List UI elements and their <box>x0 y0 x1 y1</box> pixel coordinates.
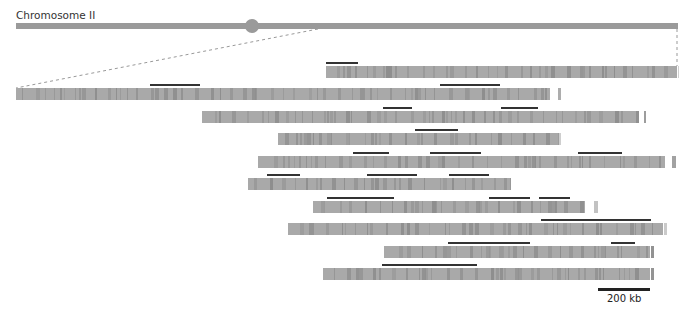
contig-track <box>313 201 585 213</box>
band <box>505 66 508 78</box>
band <box>584 111 586 123</box>
band <box>518 88 519 100</box>
band <box>489 246 491 258</box>
band <box>541 88 544 100</box>
band <box>255 88 257 100</box>
band <box>455 133 458 145</box>
band <box>407 66 409 78</box>
band <box>383 178 387 190</box>
band <box>324 111 326 123</box>
band <box>476 66 478 78</box>
band <box>127 88 128 100</box>
band <box>54 88 55 100</box>
band <box>36 88 40 100</box>
band <box>567 66 571 78</box>
band <box>582 156 583 168</box>
band <box>481 246 482 258</box>
band <box>364 88 365 100</box>
band <box>254 178 257 190</box>
band <box>379 268 381 280</box>
band <box>429 223 430 235</box>
band <box>354 178 358 190</box>
band <box>384 156 387 168</box>
band <box>504 178 507 190</box>
band <box>285 133 289 145</box>
band <box>644 111 646 123</box>
band <box>556 111 557 123</box>
band <box>678 66 679 78</box>
band <box>659 156 661 168</box>
band <box>504 268 506 280</box>
band <box>282 178 286 190</box>
band <box>332 178 336 190</box>
band <box>557 268 561 280</box>
band <box>383 66 385 78</box>
band <box>309 88 312 100</box>
band <box>445 223 446 235</box>
band <box>82 88 86 100</box>
band <box>546 133 550 145</box>
band <box>581 246 584 258</box>
band <box>560 246 561 258</box>
highlight-region <box>415 129 458 131</box>
band <box>544 223 548 235</box>
band <box>288 156 290 168</box>
band <box>652 223 653 235</box>
band <box>583 66 585 78</box>
contig-track <box>278 133 559 145</box>
band <box>451 111 452 123</box>
band <box>299 156 301 168</box>
band <box>508 246 510 258</box>
band <box>339 156 343 168</box>
band <box>491 268 494 280</box>
band <box>472 111 475 123</box>
band <box>475 133 477 145</box>
band <box>426 156 430 168</box>
highlight-region <box>150 84 200 86</box>
band <box>446 66 448 78</box>
band <box>302 111 303 123</box>
band <box>411 111 414 123</box>
band <box>324 201 325 213</box>
band <box>401 223 404 235</box>
band <box>636 111 639 123</box>
band <box>243 88 247 100</box>
band <box>491 133 492 145</box>
band <box>521 66 523 78</box>
band <box>456 246 457 258</box>
band <box>411 201 414 213</box>
band <box>404 201 407 213</box>
band <box>423 111 426 123</box>
band <box>415 201 419 213</box>
band <box>602 66 604 78</box>
band <box>268 111 269 123</box>
band <box>415 223 419 235</box>
band <box>624 268 625 280</box>
band <box>526 223 527 235</box>
band <box>623 156 625 168</box>
band <box>568 268 569 280</box>
band <box>355 66 357 78</box>
band <box>600 223 602 235</box>
band <box>664 66 668 78</box>
band <box>569 246 573 258</box>
band <box>434 133 437 145</box>
band <box>523 133 526 145</box>
band <box>557 223 558 235</box>
band <box>617 246 619 258</box>
band <box>359 268 363 280</box>
band <box>641 223 645 235</box>
highlight-region <box>489 197 530 199</box>
band <box>493 111 495 123</box>
band <box>327 111 329 123</box>
band <box>440 178 441 190</box>
band <box>531 201 533 213</box>
band <box>540 201 541 213</box>
band <box>319 133 322 145</box>
band <box>482 88 485 100</box>
band <box>424 178 425 190</box>
band <box>499 111 502 123</box>
band <box>567 156 569 168</box>
band <box>389 133 392 145</box>
band <box>463 111 465 123</box>
